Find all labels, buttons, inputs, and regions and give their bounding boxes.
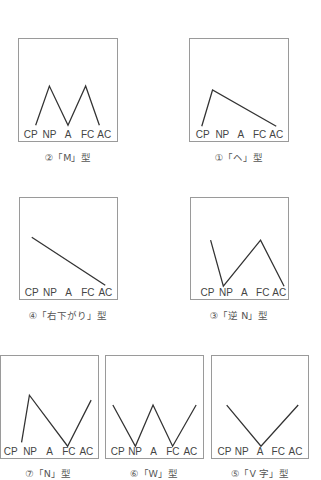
chart-box-w: CP NP A FC AC [105, 355, 204, 459]
axis-label-cp: CP [24, 129, 38, 140]
chart-box-migishitagari: CP NP A FC AC [19, 197, 118, 300]
caption-gyaku-n: ③「逆 N」型 [210, 308, 269, 322]
line-gyaku-n [191, 198, 288, 299]
axis-label-ac: AC [79, 446, 93, 457]
axis-label-fc: FC [272, 446, 285, 457]
chart-box-v: CP NP A FC AC [211, 355, 309, 459]
axis-label-np: NP [42, 129, 56, 140]
caption-v: ⑤「V 字」型 [231, 466, 289, 480]
caption-n: ⑦「N」型 [25, 466, 71, 480]
axis-labels: CP NP A FC AC [19, 128, 117, 140]
axis-label-a: A [150, 446, 157, 457]
axis-label-ac: AC [269, 129, 283, 140]
axis-label-np: NP [43, 287, 57, 298]
axis-label-fc: FC [62, 446, 75, 457]
axis-label-ac: AC [97, 129, 111, 140]
axis-label-fc: FC [166, 446, 179, 457]
line-w [106, 356, 203, 458]
axis-label-fc: FC [256, 287, 269, 298]
axis-labels: CP NP A FC AC [190, 128, 288, 140]
axis-label-cp: CP [25, 287, 39, 298]
chart-box-gyaku-n: CP NP A FC AC [190, 197, 289, 300]
line-m [19, 39, 117, 141]
axis-label-cp: CP [201, 287, 215, 298]
caption-m: ②「M」型 [45, 150, 92, 164]
axis-labels: CP NP A FC AC [106, 445, 203, 457]
axis-label-fc: FC [81, 287, 94, 298]
axis-label-ac: AC [272, 287, 286, 298]
axis-label-cp: CP [4, 446, 18, 457]
axis-label-a: A [46, 446, 53, 457]
axis-label-a: A [65, 287, 72, 298]
axis-label-cp: CP [218, 446, 232, 457]
axis-label-a: A [257, 446, 264, 457]
chart-box-m: CP NP A FC AC [18, 38, 118, 142]
axis-label-a: A [238, 129, 245, 140]
axis-labels: CP NP A FC AC [191, 286, 288, 298]
axis-label-cp: CP [111, 446, 125, 457]
caption-migishitagari: ④「右下がり」型 [29, 308, 108, 322]
axis-labels: CP NP A FC AC [20, 286, 117, 298]
axis-label-fc: FC [253, 129, 266, 140]
axis-label-ac: AC [289, 446, 303, 457]
axis-label-np: NP [235, 446, 249, 457]
axis-label-cp: CP [196, 129, 210, 140]
line-migishitagari [20, 198, 117, 299]
chart-box-n: CP NP A FC AC [0, 355, 99, 459]
axis-label-np: NP [219, 287, 233, 298]
caption-w: ⑥「W」型 [130, 466, 178, 480]
axis-labels: CP NP A FC AC [1, 445, 98, 457]
axis-label-a: A [65, 129, 72, 140]
axis-label-fc: FC [81, 129, 94, 140]
axis-label-np: NP [215, 129, 229, 140]
axis-label-np: NP [128, 446, 142, 457]
caption-he: ①「ヘ」型 [215, 150, 264, 164]
axis-label-np: NP [23, 446, 37, 457]
axis-labels: CP NP A FC AC [212, 445, 308, 457]
line-v [212, 356, 308, 458]
chart-box-he: CP NP A FC AC [189, 38, 289, 142]
line-he [190, 39, 288, 141]
axis-label-ac: AC [183, 446, 197, 457]
line-n [1, 356, 98, 458]
axis-label-a: A [241, 287, 248, 298]
axis-label-ac: AC [98, 287, 112, 298]
